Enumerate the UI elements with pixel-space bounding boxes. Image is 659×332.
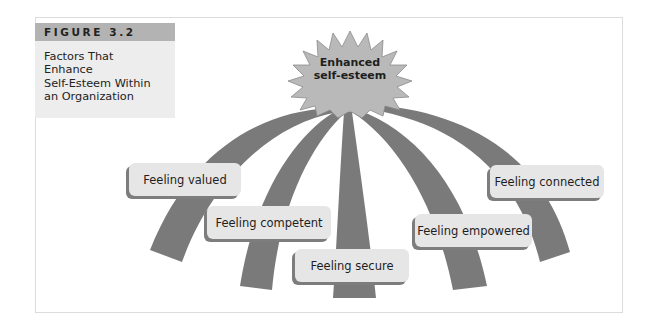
factor-box-valued: Feeling valued: [129, 163, 241, 196]
factor-box-secure: Feeling secure: [295, 249, 409, 282]
center-label-line: Enhanced: [310, 56, 390, 69]
factor-box-competent: Feeling competent: [207, 206, 331, 239]
center-label: Enhanced self-esteem: [310, 56, 390, 82]
factor-box-connected: Feeling connected: [490, 165, 604, 198]
center-label-line: self-esteem: [310, 69, 390, 82]
factor-box-empowered: Feeling empowered: [415, 214, 532, 247]
